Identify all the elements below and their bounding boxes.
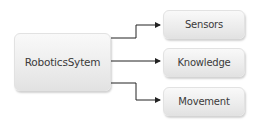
node-knowledge-label: Knowledge [177, 57, 230, 68]
root-node: RoboticsSytem [14, 33, 111, 91]
node-movement: Movement [163, 87, 245, 116]
root-node-label: RoboticsSytem [25, 56, 101, 68]
node-knowledge: Knowledge [163, 48, 245, 77]
connector-sensors [111, 25, 160, 38]
connector-movement [111, 83, 160, 100]
node-sensors: Sensors [163, 10, 245, 39]
node-movement-label: Movement [178, 96, 229, 107]
node-sensors-label: Sensors [185, 19, 223, 30]
